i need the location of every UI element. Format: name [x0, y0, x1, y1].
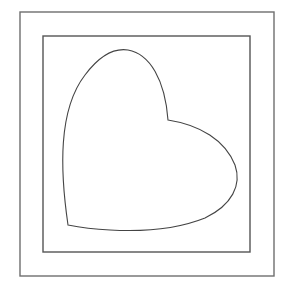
inner-frame — [43, 36, 250, 252]
outer-frame — [20, 12, 274, 276]
heart-icon — [63, 50, 237, 231]
diagram-svg — [0, 0, 288, 290]
diagram-canvas — [0, 0, 288, 290]
